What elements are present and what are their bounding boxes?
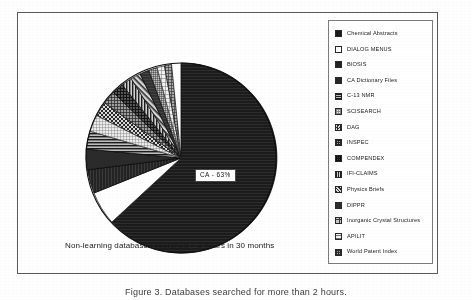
legend-item-label: Chemical Abstracts bbox=[347, 31, 398, 37]
pie-slices bbox=[86, 63, 277, 253]
legend-item-label: Physics Briefs bbox=[347, 187, 384, 193]
legend-item-label: DIALOG MENUS bbox=[347, 47, 392, 53]
legend-item-dialog-menus[interactable]: DIALOG MENUS bbox=[335, 42, 432, 58]
legend-item-label: Inorganic Crystal Structures bbox=[347, 218, 420, 224]
legend-item-label: SCISEARCH bbox=[347, 109, 381, 115]
pie-chart-svg bbox=[81, 58, 281, 258]
legend-swatch-icon bbox=[335, 249, 342, 256]
legend-swatch-icon bbox=[335, 217, 342, 224]
legend-swatch-icon bbox=[335, 46, 342, 53]
legend-swatch-icon bbox=[335, 233, 342, 240]
figure-frame: CA - 63% Non-learning databases searched… bbox=[17, 12, 438, 274]
legend-swatch-icon bbox=[335, 171, 342, 178]
legend-item-label: DAG bbox=[347, 125, 360, 131]
legend-swatch-icon bbox=[335, 202, 342, 209]
legend-item-inorganic-crystal-structures[interactable]: Inorganic Crystal Structures bbox=[335, 213, 432, 229]
legend-item-dag[interactable]: DAG bbox=[335, 120, 432, 136]
legend-item-label: CA Dictionary Files bbox=[347, 78, 397, 84]
legend-item-label: World Patent Index bbox=[347, 249, 397, 255]
legend: Chemical Abstracts DIALOG MENUS BIOSIS C… bbox=[328, 20, 433, 264]
legend-swatch-icon bbox=[335, 155, 342, 162]
chart-caption: Non-learning databases searched > 2 hour… bbox=[65, 241, 274, 250]
legend-item-label: COMPENDEX bbox=[347, 156, 384, 162]
pie-chart: CA - 63% bbox=[81, 58, 281, 258]
legend-item-c13-nmr[interactable]: C-13 NMR bbox=[335, 88, 432, 104]
legend-item-label: IFI-CLAIMS bbox=[347, 171, 378, 177]
legend-item-label: DIPPR bbox=[347, 203, 365, 209]
legend-item-physics-briefs[interactable]: Physics Briefs bbox=[335, 182, 432, 198]
legend-item-ifi-claims[interactable]: IFI-CLAIMS bbox=[335, 166, 432, 182]
legend-item-label: APILIT bbox=[347, 234, 365, 240]
legend-item-dippr[interactable]: DIPPR bbox=[335, 198, 432, 214]
legend-item-world-patent-index[interactable]: World Patent Index bbox=[335, 244, 432, 260]
legend-swatch-icon bbox=[335, 93, 342, 100]
legend-swatch-icon bbox=[335, 186, 342, 193]
pie-data-label: CA - 63% bbox=[195, 169, 236, 182]
legend-item-ca-dictionary-files[interactable]: CA Dictionary Files bbox=[335, 73, 432, 89]
figure-caption: Figure 3. Databases searched for more th… bbox=[0, 287, 472, 300]
legend-swatch-icon bbox=[335, 61, 342, 68]
legend-item-inspec[interactable]: INSPEC bbox=[335, 135, 432, 151]
legend-swatch-icon bbox=[335, 124, 342, 131]
legend-swatch-icon bbox=[335, 139, 342, 146]
legend-swatch-icon bbox=[335, 108, 342, 115]
legend-item-chemical-abstracts[interactable]: Chemical Abstracts bbox=[335, 26, 432, 42]
legend-item-compendex[interactable]: COMPENDEX bbox=[335, 151, 432, 167]
legend-item-label: C-13 NMR bbox=[347, 93, 375, 99]
legend-item-biosis[interactable]: BIOSIS bbox=[335, 57, 432, 73]
legend-item-label: BIOSIS bbox=[347, 62, 367, 68]
legend-item-label: INSPEC bbox=[347, 140, 369, 146]
legend-swatch-icon bbox=[335, 77, 342, 84]
legend-item-scisearch[interactable]: SCISEARCH bbox=[335, 104, 432, 120]
legend-item-apilit[interactable]: APILIT bbox=[335, 229, 432, 245]
legend-swatch-icon bbox=[335, 30, 342, 37]
